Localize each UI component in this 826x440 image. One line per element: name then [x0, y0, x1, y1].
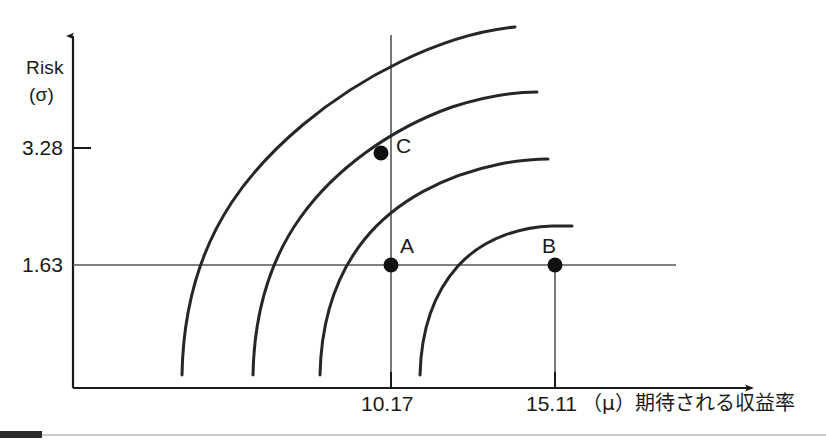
chart-plot-area: [0, 0, 826, 440]
data-point-label-a: A: [400, 234, 414, 258]
data-point-c: [374, 146, 389, 161]
x-tick-label-right: 15.11: [526, 392, 577, 416]
data-point-label-c: C: [396, 134, 411, 158]
chart-figure: Risk (σ) 3.28 1.63 10.17 15.11 A B C （μ）…: [0, 0, 826, 440]
data-point-a: [384, 258, 399, 273]
y-axis-title-line2: (σ): [29, 84, 54, 106]
indifference-curve-2: [253, 92, 537, 375]
y-tick-label-lower: 1.63: [22, 253, 63, 277]
x-tick-label-left: 10.17: [361, 392, 414, 416]
data-point-b: [548, 258, 563, 273]
y-tick-label-upper: 3.28: [22, 136, 63, 160]
x-axis-title: （μ）期待される収益率: [582, 392, 795, 415]
y-axis-title-line1: Risk: [26, 57, 64, 79]
indifference-curve-1: [182, 27, 515, 375]
scan-artifact-bar: [0, 431, 42, 438]
indifference-curve-3: [320, 159, 548, 375]
data-point-label-b: B: [542, 234, 556, 258]
scan-artifact-line: [42, 434, 826, 436]
